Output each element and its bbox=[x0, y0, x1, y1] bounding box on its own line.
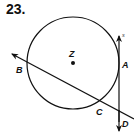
label-z: Z bbox=[68, 49, 75, 59]
label-d: D bbox=[122, 119, 129, 129]
geometry-diagram: Z A B C D s bbox=[0, 0, 134, 138]
label-c: C bbox=[96, 107, 103, 117]
label-a: A bbox=[121, 60, 129, 70]
label-b: B bbox=[16, 65, 23, 75]
center-point-z bbox=[71, 61, 75, 65]
label-s: s bbox=[122, 31, 125, 39]
